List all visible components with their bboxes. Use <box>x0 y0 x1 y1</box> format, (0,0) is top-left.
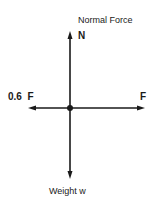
normal-symbol-label: N <box>78 31 85 41</box>
force-diagram <box>0 0 153 207</box>
friction-label: 0.6 F <box>8 92 34 102</box>
body-point <box>67 105 73 111</box>
weight-label: Weight w <box>49 186 86 196</box>
applied-force-label: F <box>140 92 146 102</box>
normal-force-label: Normal Force <box>78 15 133 25</box>
